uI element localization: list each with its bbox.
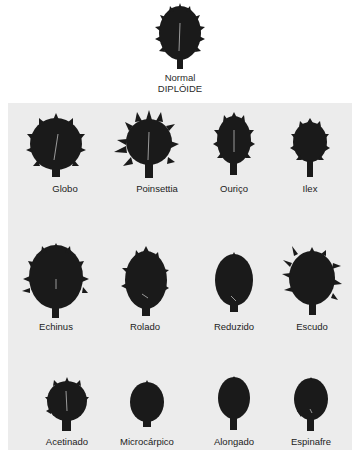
mutant-espinafre: Espinafre: [293, 377, 329, 447]
mutant-label: Espinafre: [241, 436, 361, 447]
mutant-microcarpico: Microcárpico: [129, 380, 165, 447]
ourico-fruit-icon: [212, 112, 256, 178]
mutant-echinus: Echinus: [22, 243, 90, 333]
reduzido-fruit-icon: [214, 252, 254, 314]
acetinado-fruit-icon: [44, 377, 90, 433]
globo-fruit-icon: [25, 112, 87, 180]
capsule-mutants-figure: Normal DIPLÓIDE Globo: [0, 0, 361, 455]
mutant-escudo: Escudo: [282, 246, 342, 333]
diploid-label: DIPLÓIDE: [130, 83, 230, 94]
echinus-fruit-icon: [22, 243, 90, 319]
normal-label: Normal: [130, 72, 230, 83]
poinsettia-fruit-icon: [113, 110, 181, 182]
mutant-ilex: Ilex: [290, 118, 330, 197]
mutant-rolado: Rolado: [120, 246, 170, 333]
normal-fruit-icon: [152, 1, 208, 71]
normal-diploid-specimen: Normal DIPLÓIDE: [130, 0, 230, 100]
escudo-fruit-icon: [282, 246, 342, 318]
rolado-fruit-icon: [120, 246, 170, 318]
mutant-label: Escudo: [242, 321, 361, 332]
microcarpico-fruit-icon: [129, 380, 165, 428]
alongado-fruit-icon: [217, 376, 251, 432]
espinafre-fruit-icon: [293, 377, 329, 433]
mutant-label: Ilex: [240, 183, 361, 194]
ilex-fruit-icon: [290, 118, 330, 180]
